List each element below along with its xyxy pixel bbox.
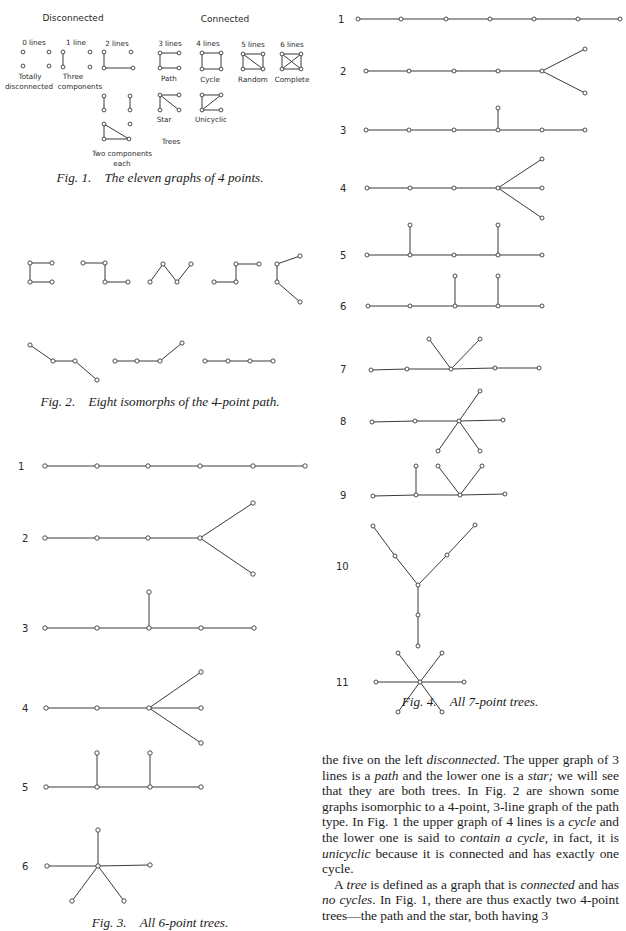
graph-node bbox=[198, 464, 202, 468]
graph-node bbox=[407, 69, 411, 73]
graph-node bbox=[95, 378, 99, 382]
graph-node bbox=[95, 626, 99, 630]
graph-node bbox=[356, 17, 360, 21]
graph-node bbox=[473, 523, 477, 527]
graph-node bbox=[440, 651, 444, 655]
graph-node bbox=[537, 366, 541, 370]
graph-node bbox=[234, 280, 238, 284]
graph-node bbox=[583, 47, 587, 51]
graph-node bbox=[444, 17, 448, 21]
graph-node bbox=[226, 359, 230, 363]
graph-edge bbox=[98, 865, 150, 866]
graph-node bbox=[496, 128, 500, 132]
graph-node bbox=[303, 464, 307, 468]
graph-node bbox=[219, 67, 223, 71]
graph-node bbox=[96, 864, 100, 868]
graph-label: each bbox=[113, 159, 130, 168]
graph-edge bbox=[542, 49, 585, 71]
paragraph-disconnected-path-star: the five on the left disconnected. The u… bbox=[322, 752, 619, 877]
graph-node bbox=[365, 186, 369, 190]
graph-path bbox=[158, 51, 181, 70]
graph-node bbox=[103, 280, 107, 284]
graph-edge bbox=[373, 495, 416, 496]
graph-node bbox=[445, 553, 449, 557]
graph-edge bbox=[160, 95, 179, 110]
graph-node bbox=[478, 337, 482, 341]
graph-label: Star bbox=[157, 115, 172, 124]
tree-2 bbox=[364, 47, 587, 95]
graph-edge bbox=[163, 264, 177, 282]
graph-node bbox=[50, 261, 54, 265]
graph-label: 0 lines bbox=[22, 38, 46, 47]
figure-1-eleven-graphs: DisconnectedConnected0 lines1 line2 line… bbox=[5, 13, 310, 168]
graph-edge bbox=[200, 538, 253, 574]
graph-node bbox=[128, 108, 132, 112]
graph-edge bbox=[177, 264, 191, 282]
graph-node bbox=[396, 651, 400, 655]
graph-node bbox=[280, 52, 284, 56]
graph-edge bbox=[75, 361, 97, 380]
graph-node bbox=[252, 626, 256, 630]
graph-node bbox=[241, 67, 245, 71]
graph-edge bbox=[498, 159, 542, 188]
graph-edge bbox=[150, 264, 163, 282]
graph-node bbox=[177, 108, 181, 112]
graph-node bbox=[128, 94, 132, 98]
graph-label: Three bbox=[62, 72, 84, 81]
graph-node bbox=[496, 304, 500, 308]
graph-edge bbox=[398, 653, 420, 682]
fig3-caption: Fig. 3. All 6-point trees. bbox=[91, 915, 229, 930]
graph-node bbox=[416, 583, 420, 587]
graph-node bbox=[371, 524, 375, 528]
graph-node bbox=[540, 186, 544, 190]
graph-node bbox=[488, 17, 492, 21]
graph-node bbox=[540, 157, 544, 161]
path-isomorph bbox=[275, 254, 302, 304]
graph-node bbox=[148, 785, 152, 789]
graph-label: Cycle bbox=[200, 75, 220, 84]
graph-node bbox=[241, 52, 245, 56]
graph-node bbox=[175, 280, 179, 284]
graph-node bbox=[219, 108, 223, 112]
graph-complete bbox=[280, 52, 303, 71]
tree-5 bbox=[44, 751, 203, 789]
tree-number: 3 bbox=[22, 623, 28, 634]
path-isomorph bbox=[28, 261, 54, 284]
tree-number: 7 bbox=[340, 364, 346, 375]
tree-number: 5 bbox=[22, 782, 28, 793]
graph-node bbox=[158, 66, 162, 70]
graph-node bbox=[496, 69, 500, 73]
graph-0-lines bbox=[21, 50, 51, 68]
graph-node bbox=[408, 304, 412, 308]
graph-node bbox=[122, 899, 126, 903]
graph-edge bbox=[277, 282, 300, 302]
graph-node bbox=[493, 366, 497, 370]
tree-number: 5 bbox=[340, 250, 346, 261]
graph-node bbox=[540, 216, 544, 220]
graph-node bbox=[95, 785, 99, 789]
tree-number: 9 bbox=[340, 490, 346, 501]
graph-node bbox=[405, 367, 409, 371]
graph-node bbox=[95, 706, 99, 710]
group-header: Disconnected bbox=[42, 13, 103, 23]
figure-4-seven-point-trees: 1234567891011 bbox=[336, 14, 622, 714]
graph-node bbox=[102, 108, 106, 112]
graph-edge bbox=[200, 503, 253, 538]
graph-star bbox=[158, 93, 181, 112]
graph-node bbox=[43, 464, 47, 468]
graph-unicyclic bbox=[200, 93, 223, 112]
tree-5 bbox=[365, 223, 544, 257]
graph-node bbox=[28, 280, 32, 284]
graph-node bbox=[102, 137, 106, 141]
graph-edge bbox=[459, 420, 503, 421]
graph-node bbox=[146, 464, 150, 468]
tree-number: 4 bbox=[22, 703, 28, 714]
graph-node bbox=[457, 419, 461, 423]
graph-node bbox=[496, 186, 500, 190]
graph-node bbox=[370, 420, 374, 424]
graph-label: 6 lines bbox=[280, 40, 304, 49]
graph-node bbox=[28, 343, 32, 347]
graph-node bbox=[251, 501, 255, 505]
graph-node bbox=[44, 785, 48, 789]
graph-node bbox=[95, 751, 99, 755]
